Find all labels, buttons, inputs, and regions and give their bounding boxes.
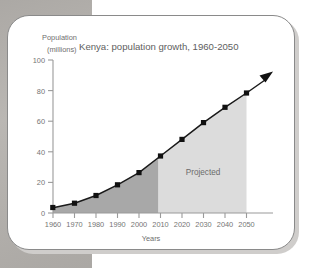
x-tick-label-1970: 1970	[66, 220, 82, 229]
x-tick-label-1990: 1990	[109, 220, 125, 229]
data-point-2040	[222, 105, 227, 110]
y-axis-title-line2: (millions)	[47, 45, 77, 54]
data-point-1970	[72, 201, 77, 206]
x-axis-title: Years	[142, 234, 161, 243]
x-tick-label-1960: 1960	[45, 220, 61, 229]
x-axis-ticks	[53, 213, 247, 218]
population-growth-chart: Population (millions) Kenya: population …	[7, 15, 295, 250]
data-point-1960	[50, 205, 55, 210]
y-axis-title-line1: Population	[42, 33, 77, 42]
y-tick-label-80: 80	[37, 87, 45, 96]
data-point-2020	[179, 137, 184, 142]
chart-title: Kenya: population growth, 1960-2050	[79, 41, 238, 52]
x-tick-label-2010: 2010	[152, 220, 168, 229]
x-tick-label-2050: 2050	[238, 220, 254, 229]
x-tick-label-2000: 2000	[131, 220, 147, 229]
data-point-2010	[158, 153, 163, 158]
screenshot-root: Population (millions) Kenya: population …	[0, 0, 317, 268]
data-point-2050	[244, 90, 249, 95]
projected-area-fill	[159, 93, 247, 213]
y-tick-label-100: 100	[33, 56, 45, 65]
x-tick-label-2020: 2020	[174, 220, 190, 229]
chart-svg: Population (millions) Kenya: population …	[7, 15, 295, 250]
y-tick-label-60: 60	[37, 117, 45, 126]
projected-annotation: Projected	[186, 168, 221, 177]
data-point-1990	[115, 182, 120, 187]
trend-arrowhead	[260, 72, 274, 83]
x-tick-label-1980: 1980	[88, 220, 104, 229]
data-point-1980	[93, 193, 98, 198]
x-tick-label-2040: 2040	[217, 220, 233, 229]
x-tick-label-2030: 2030	[195, 220, 211, 229]
data-point-2000	[136, 170, 141, 175]
y-tick-label-40: 40	[37, 148, 45, 157]
y-axis-ticks	[48, 60, 53, 213]
y-tick-label-0: 0	[41, 209, 45, 218]
y-tick-label-20: 20	[37, 178, 45, 187]
data-point-2030	[201, 120, 206, 125]
